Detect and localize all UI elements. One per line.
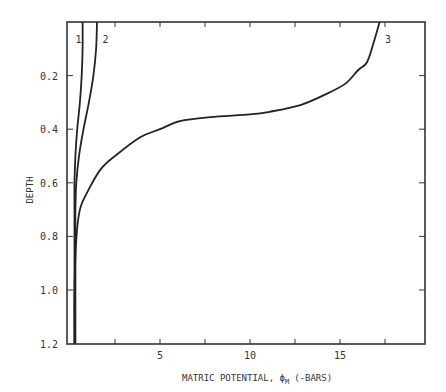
plot-frame — [67, 22, 425, 344]
x-tick-label: 10 — [244, 350, 256, 361]
y-tick-label: 0.6 — [40, 178, 58, 189]
x-axis-ticks — [115, 22, 385, 344]
x-tick-label: 5 — [157, 350, 163, 361]
y-tick-label: 0.2 — [40, 71, 58, 82]
depth-vs-matric-potential-chart: 51015 0.20.40.60.81.01.2 123 MATRIC POTE… — [0, 0, 446, 392]
curve-labels: 123 — [75, 34, 391, 45]
y-tick-label: 1.2 — [40, 339, 58, 350]
curve-2 — [75, 22, 97, 344]
curve-label-3: 3 — [385, 34, 391, 45]
x-axis-title: MATRIC POTENTIAL, ϕM(-BARS) — [182, 373, 332, 386]
x-tick-label: 15 — [334, 350, 346, 361]
curve-label-2: 2 — [102, 34, 108, 45]
y-axis-tick-labels: 0.20.40.60.81.01.2 — [40, 71, 58, 350]
x-axis-title-subscript: M — [285, 378, 289, 386]
curves — [74, 22, 379, 344]
x-axis-title-main: MATRIC POTENTIAL, ϕ — [182, 373, 285, 383]
y-axis-title: DEPTH — [25, 176, 35, 203]
y-tick-label: 1.0 — [40, 285, 58, 296]
x-axis-title-units: (-BARS) — [294, 373, 332, 383]
y-axis-ticks — [67, 76, 425, 290]
curve-3 — [74, 22, 379, 344]
y-tick-label: 0.8 — [40, 231, 58, 242]
y-tick-label: 0.4 — [40, 124, 58, 135]
x-axis-tick-labels: 51015 — [157, 350, 346, 361]
curve-label-1: 1 — [75, 34, 81, 45]
